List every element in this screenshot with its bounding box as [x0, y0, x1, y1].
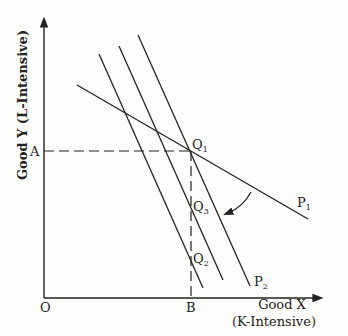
point-b-label: B	[186, 300, 196, 315]
rotation-arrow-icon	[228, 192, 251, 213]
point-a-label: A	[29, 144, 40, 159]
q1-label: Q1	[192, 137, 208, 154]
origin-label: O	[40, 300, 51, 315]
p1-label: P1	[297, 195, 311, 212]
iso-line-2	[119, 46, 223, 280]
q2-label: Q2	[193, 251, 209, 268]
p2-label: P2	[254, 274, 268, 291]
y-axis-label: Good Y (L-Intensive)	[15, 30, 30, 180]
diagram-canvas: Good Y (L-Intensive) A O B Q1 Q3 Q2 P1 P…	[0, 0, 348, 336]
price-line-p2	[138, 35, 250, 286]
x-axis-label-sub: (K-Intensive)	[232, 314, 316, 329]
iso-line-1	[99, 54, 203, 288]
x-axis-label: Good X	[258, 297, 306, 312]
q3-label: Q3	[193, 199, 209, 216]
